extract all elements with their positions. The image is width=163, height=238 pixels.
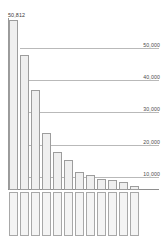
plot-area: 50,000 40,000 30,000 20,000 10,000 50,81… [0,0,163,238]
bar-chart: 50,000 40,000 30,000 20,000 10,000 50,81… [0,0,163,238]
category-label-canada: Canada [97,192,106,236]
category-label-japan: Japan [31,192,40,236]
category-label-uk: UK [42,192,51,236]
category-label-switz: Switz [130,192,139,236]
category-labels-layer: Germany USA Japan UK France Italy Austri… [9,0,161,238]
category-label-germany: Germany [9,192,18,236]
category-label-austria: Austria [75,192,84,236]
category-label-usa: USA [20,192,29,236]
category-label-france: France [53,192,62,236]
category-label-netherlands: Netherlands [86,192,95,236]
category-label-russia: Russia [108,192,117,236]
category-label-belgium: Belgium [119,192,128,236]
category-label-italy: Italy [64,192,73,236]
